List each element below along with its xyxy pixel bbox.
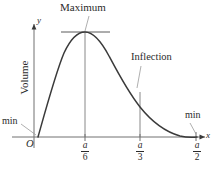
inflection-leader-line xyxy=(137,66,141,88)
x-tick-label-a2-denominator: 2 xyxy=(187,153,207,163)
x-tick-label-a3-denominator: 3 xyxy=(130,153,150,163)
x-tick-label-a2: a 2 xyxy=(187,141,207,163)
volume-curve-figure: Maximum Inflection min min Volume O y x … xyxy=(0,0,217,175)
y-axis-arrowhead xyxy=(32,24,37,30)
x-tick-label-a6-numerator: a xyxy=(75,141,95,151)
x-axis-arrowhead xyxy=(200,135,206,140)
x-axis-symbol: x xyxy=(206,131,210,140)
y-axis-symbol: y xyxy=(37,16,41,25)
x-tick-label-a2-numerator: a xyxy=(187,141,207,151)
min-right-leader-line xyxy=(190,123,196,134)
x-tick-label-a6-denominator: 6 xyxy=(75,153,95,163)
maximum-label: Maximum xyxy=(60,2,106,13)
maximum-leader-line xyxy=(85,16,89,31)
y-axis-title: Volume xyxy=(19,40,30,116)
x-tick-label-a3-numerator: a xyxy=(130,141,150,151)
min-right-label: min xyxy=(185,110,201,120)
origin-label: O xyxy=(26,139,34,150)
volume-curve xyxy=(38,32,197,137)
x-tick-label-a6: a 6 xyxy=(75,141,95,163)
x-tick-label-a3: a 3 xyxy=(130,141,150,163)
inflection-label: Inflection xyxy=(131,52,172,63)
min-left-label: min xyxy=(2,116,18,126)
